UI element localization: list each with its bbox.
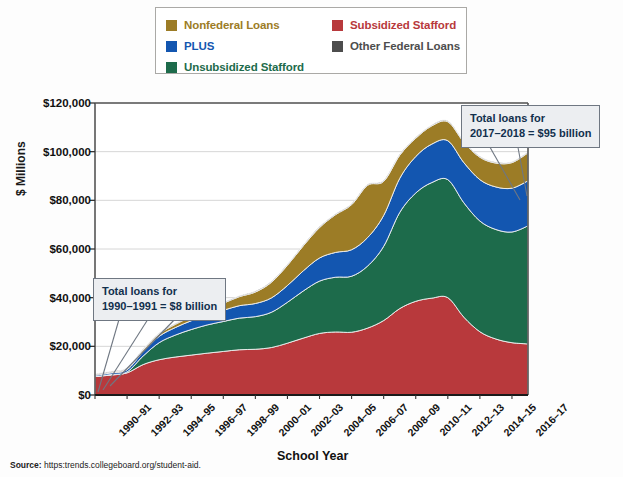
callout-1990-annotation: Total loans for 1990–1991 = $8 billion [93,278,226,321]
x-axis-tick-label: 2014–15 [501,401,538,438]
x-axis-tick-label: 2012–13 [469,401,506,438]
x-axis-title: School Year [277,449,348,463]
source-note: Source: https:trends.collegeboard.org/st… [10,460,201,470]
callout-1990-line1: Total loans for [102,284,217,299]
x-axis-tick-label: 2010–11 [437,401,474,438]
source-url: https:trends.collegeboard.org/student-ai… [42,460,201,470]
x-axis-tick-label: 2000–01 [276,401,313,438]
callout-1990-line2: 1990–1991 = $8 billion [102,299,217,314]
stacked-area-chart: $0$20,000$40,000$60,000$80,000$100,000$1… [0,0,623,477]
x-axis-tick-label: 1990–91 [116,401,153,438]
x-axis-tick-label: 1994–95 [180,401,217,438]
x-axis-tick-label: 1996–97 [212,401,249,438]
x-axis-tick-label: 2002–03 [308,401,345,438]
callout-2017-line1: Total loans for [470,111,591,126]
callout-2017-line2: 2017–2018 = $95 billion [470,126,591,141]
x-axis-tick-label: 2004–05 [340,401,377,438]
x-axis-tick-label: 2008–09 [405,401,442,438]
chart-page: Nonfederal LoansPLUSUnsubsidized Staffor… [0,0,623,477]
x-axis-tick-labels: 1990–911992–931994–951996–971998–992000–… [0,0,623,477]
x-axis-tick-label: 1992–93 [148,401,185,438]
x-axis-tick-label: 2016–17 [533,401,570,438]
x-axis-tick-label: 2006–07 [373,401,410,438]
x-axis-tick-label: 1998–99 [244,401,281,438]
source-label: Source: [10,460,42,470]
callout-2017-annotation: Total loans for 2017–2018 = $95 billion [461,105,600,148]
